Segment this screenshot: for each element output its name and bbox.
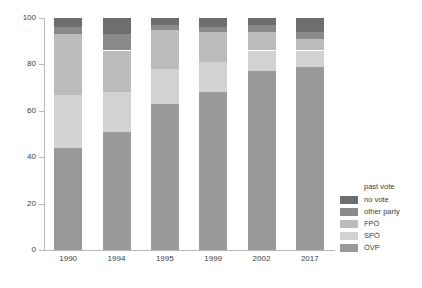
y-axis-tick-label: 80 <box>27 60 36 68</box>
x-axis-line <box>44 250 335 251</box>
bar-segment[interactable] <box>248 25 276 32</box>
legend-item[interactable]: no vote <box>340 194 418 205</box>
bar-segment[interactable] <box>199 27 227 32</box>
bar-segment[interactable] <box>248 71 276 250</box>
legend-item[interactable]: ÖVP <box>340 242 418 253</box>
bar-segment[interactable] <box>54 95 82 148</box>
y-axis-tick <box>39 250 44 251</box>
legend-swatch <box>340 208 358 216</box>
bar-segment[interactable] <box>103 34 131 50</box>
y-axis-tick-labels: 020406080100 <box>0 0 38 288</box>
legend-swatch <box>340 220 358 228</box>
legend-label: ÖVP <box>364 243 380 252</box>
y-axis-tick-label: 0 <box>32 246 36 254</box>
bar-group[interactable] <box>296 18 324 250</box>
bar-segment[interactable] <box>248 18 276 25</box>
bar-group[interactable] <box>248 18 276 250</box>
bar-segment[interactable] <box>54 27 82 34</box>
bar-group[interactable] <box>199 18 227 250</box>
legend-title: past vote <box>364 182 418 191</box>
bar-segment[interactable] <box>151 69 179 104</box>
bar-segment[interactable] <box>296 18 324 32</box>
y-axis-tick-label: 100 <box>23 14 36 22</box>
bar-segment[interactable] <box>103 132 131 250</box>
legend-item[interactable]: other party <box>340 206 418 217</box>
bar-segment[interactable] <box>296 51 324 67</box>
x-axis-tick-label: 1995 <box>145 255 185 263</box>
bar-segment[interactable] <box>151 30 179 69</box>
bar-stack <box>54 18 82 250</box>
bar-segment[interactable] <box>199 32 227 62</box>
y-axis-tick-label: 40 <box>27 153 36 161</box>
bar-segment[interactable] <box>248 51 276 72</box>
bar-segment[interactable] <box>199 62 227 92</box>
bar-segment[interactable] <box>296 67 324 250</box>
bar-segment[interactable] <box>151 18 179 25</box>
legend-label: no vote <box>364 195 389 204</box>
x-axis-tick-label: 1994 <box>97 255 137 263</box>
legend-swatch <box>340 244 358 252</box>
x-axis-tick-label: 1999 <box>193 255 233 263</box>
legend-item[interactable]: SPÖ <box>340 230 418 241</box>
bar-segment[interactable] <box>54 34 82 94</box>
bar-series-container <box>44 18 334 250</box>
legend-label: FPÖ <box>364 219 379 228</box>
bar-stack <box>103 18 131 250</box>
bar-stack <box>199 18 227 250</box>
bar-segment[interactable] <box>199 18 227 27</box>
bar-segment[interactable] <box>296 32 324 39</box>
bar-segment[interactable] <box>151 104 179 250</box>
bar-segment[interactable] <box>103 18 131 34</box>
stacked-bar-chart: 020406080100 199019941995199920022017 pa… <box>0 0 422 288</box>
legend-label: SPÖ <box>364 231 380 240</box>
bar-stack <box>248 18 276 250</box>
bar-segment[interactable] <box>54 18 82 27</box>
y-axis-tick-label: 20 <box>27 200 36 208</box>
x-axis-tick-label: 1990 <box>48 255 88 263</box>
bar-segment[interactable] <box>103 92 131 131</box>
legend-items: no voteother partyFPÖSPÖÖVP <box>340 194 418 253</box>
bar-group[interactable] <box>54 18 82 250</box>
bar-segment[interactable] <box>199 92 227 250</box>
legend-label: other party <box>364 207 400 216</box>
bar-segment[interactable] <box>151 25 179 30</box>
bar-segment[interactable] <box>248 32 276 51</box>
legend-swatch <box>340 232 358 240</box>
plot-area <box>44 18 334 250</box>
legend-swatch <box>340 196 358 204</box>
legend: past vote no voteother partyFPÖSPÖÖVP <box>340 182 418 254</box>
y-axis-tick-label: 60 <box>27 107 36 115</box>
x-axis-tick-label: 2017 <box>290 255 330 263</box>
bar-stack <box>151 18 179 250</box>
bar-segment[interactable] <box>296 39 324 51</box>
bar-stack <box>296 18 324 250</box>
x-axis-tick-label: 2002 <box>242 255 282 263</box>
bar-segment[interactable] <box>103 51 131 93</box>
bar-group[interactable] <box>103 18 131 250</box>
legend-item[interactable]: FPÖ <box>340 218 418 229</box>
bar-segment[interactable] <box>54 148 82 250</box>
bar-group[interactable] <box>151 18 179 250</box>
